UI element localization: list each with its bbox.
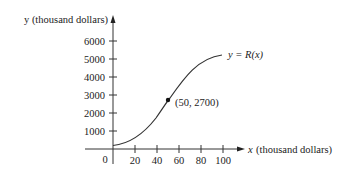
revenue-chart: 1000 2000 3000 4000 5000 6000 0 20 40 60… [0,0,346,178]
y-tick-label: 4000 [84,72,105,83]
x-tick-label: 40 [152,155,163,166]
x-axis-variable: x [247,144,253,155]
x-tick-label: 60 [174,155,185,166]
x-tick-label: 20 [130,155,141,166]
y-tick-label: 5000 [84,54,105,65]
y-tick-label: 3000 [84,90,105,101]
x-axis-title: (thousand dollars) [256,144,333,156]
y-tick-label: 2000 [84,108,105,119]
curve-label: y = R(x) [227,49,264,61]
x-tick-label: 80 [196,155,207,166]
y-axis-arrow-icon [111,15,116,23]
x-axis-arrow-icon [237,147,245,152]
point-label: (50, 2700) [175,97,219,109]
x-tick-label: 100 [215,155,231,166]
y-tick-label: 6000 [84,36,105,47]
y-axis-title: y (thousand dollars) [24,14,108,26]
data-point-marker [166,98,170,102]
y-tick-label: 1000 [84,126,105,137]
origin-label: 0 [102,154,107,165]
